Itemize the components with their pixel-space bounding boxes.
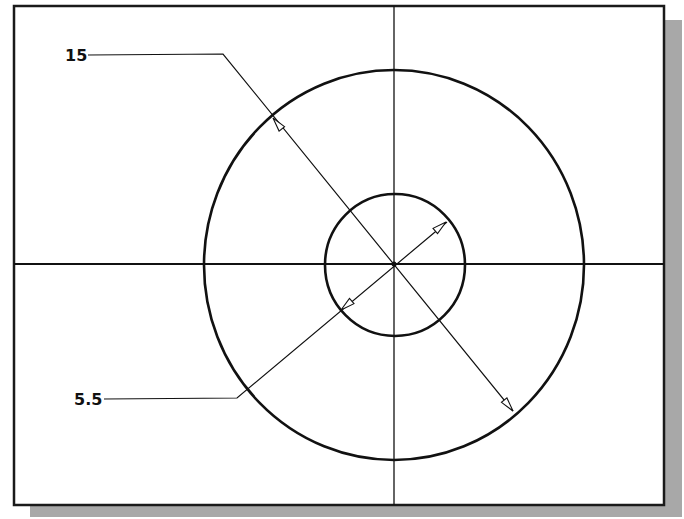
diagram-canvas: 15 5.5	[0, 0, 684, 519]
dimension-label-15: 15	[65, 46, 87, 65]
drawing-frame	[14, 6, 664, 505]
dimension-label-5-5: 5.5	[74, 390, 102, 409]
cad-drawing: 15 5.5	[0, 0, 684, 519]
